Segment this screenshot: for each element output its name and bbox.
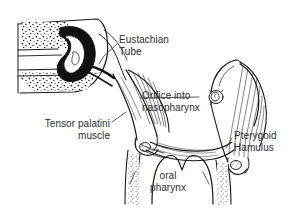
leader-oral-right (203, 172, 209, 184)
label-orifice-into-nasopharynx: Orifice into nasopharynx (142, 90, 200, 113)
pterygoid-hamulus-right (227, 158, 249, 174)
pharyngeal-wall-right (216, 160, 231, 204)
middle-ear-cross-section (18, 19, 127, 94)
leader-tensor (112, 112, 126, 122)
label-pterygoid-hamulus: Pterygoid Hamulus (234, 130, 277, 153)
anatomy-figure: Eustachian Tube Orifice into nasopharynx… (0, 0, 292, 209)
label-oral-pharynx: oral pharynx (137, 170, 199, 193)
label-tensor-palatini-muscle: Tensor palatini muscle (6, 118, 110, 141)
label-eustachian-tube: Eustachian Tube (119, 34, 169, 57)
